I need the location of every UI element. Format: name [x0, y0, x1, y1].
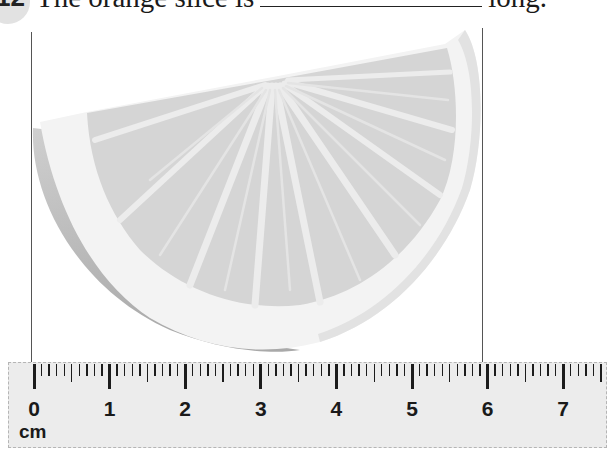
minor-tick — [245, 364, 246, 376]
major-tick — [259, 364, 262, 389]
minor-tick — [510, 364, 511, 376]
minor-tick — [578, 364, 579, 376]
half-tick — [600, 364, 601, 382]
minor-tick — [101, 364, 102, 376]
minor-tick — [79, 364, 80, 376]
minor-tick — [434, 364, 435, 376]
ruler-label: 2 — [179, 397, 191, 421]
ruler-label: 3 — [255, 397, 267, 421]
half-tick — [525, 364, 526, 382]
half-tick — [147, 364, 148, 382]
minor-tick — [404, 364, 405, 376]
minor-tick — [547, 364, 548, 376]
minor-tick — [457, 364, 458, 376]
half-tick — [374, 364, 375, 382]
centimeter-ruler: 01234567 cm — [8, 362, 607, 448]
minor-tick — [593, 364, 594, 376]
minor-tick — [328, 364, 329, 376]
minor-tick — [517, 364, 518, 376]
minor-tick — [139, 364, 140, 376]
half-tick — [71, 364, 72, 382]
minor-tick — [305, 364, 306, 376]
minor-tick — [162, 364, 163, 376]
minor-tick — [215, 364, 216, 376]
minor-tick — [253, 364, 254, 376]
minor-tick — [381, 364, 382, 376]
guide-line-left — [31, 32, 32, 362]
half-tick — [298, 364, 299, 382]
minor-tick — [41, 364, 42, 376]
minor-tick — [494, 364, 495, 376]
minor-tick — [502, 364, 503, 376]
major-tick — [562, 364, 565, 389]
minor-tick — [237, 364, 238, 376]
minor-tick — [56, 364, 57, 376]
minor-tick — [540, 364, 541, 376]
ruler-label: 6 — [482, 397, 494, 421]
minor-tick — [192, 364, 193, 376]
minor-tick — [343, 364, 344, 376]
guide-line-right — [482, 28, 483, 362]
minor-tick — [321, 364, 322, 376]
ruler-label: 5 — [406, 397, 418, 421]
half-tick — [449, 364, 450, 382]
minor-tick — [464, 364, 465, 376]
minor-tick — [64, 364, 65, 376]
major-tick — [335, 364, 338, 389]
minor-tick — [132, 364, 133, 376]
minor-tick — [419, 364, 420, 376]
ruler-unit-label: cm — [19, 421, 46, 443]
major-tick — [33, 364, 36, 389]
ruler-label: 1 — [104, 397, 116, 421]
minor-tick — [283, 364, 284, 376]
minor-tick — [207, 364, 208, 376]
minor-tick — [585, 364, 586, 376]
minor-tick — [154, 364, 155, 376]
minor-tick — [426, 364, 427, 376]
ruler-label: 7 — [557, 397, 569, 421]
minor-tick — [366, 364, 367, 376]
minor-tick — [351, 364, 352, 376]
minor-tick — [532, 364, 533, 376]
ruler-label: 4 — [331, 397, 343, 421]
minor-tick — [313, 364, 314, 376]
minor-tick — [124, 364, 125, 376]
minor-tick — [555, 364, 556, 376]
major-tick — [108, 364, 111, 389]
minor-tick — [479, 364, 480, 376]
major-tick — [486, 364, 489, 389]
major-tick — [411, 364, 414, 389]
minor-tick — [169, 364, 170, 376]
minor-tick — [177, 364, 178, 376]
minor-tick — [200, 364, 201, 376]
minor-tick — [570, 364, 571, 376]
major-tick — [184, 364, 187, 389]
minor-tick — [230, 364, 231, 376]
minor-tick — [442, 364, 443, 376]
minor-tick — [396, 364, 397, 376]
minor-tick — [268, 364, 269, 376]
minor-tick — [94, 364, 95, 376]
ruler-label: 0 — [28, 397, 40, 421]
minor-tick — [389, 364, 390, 376]
half-tick — [222, 364, 223, 382]
minor-tick — [472, 364, 473, 376]
minor-tick — [358, 364, 359, 376]
minor-tick — [275, 364, 276, 376]
minor-tick — [116, 364, 117, 376]
minor-tick — [290, 364, 291, 376]
minor-tick — [48, 364, 49, 376]
minor-tick — [86, 364, 87, 376]
